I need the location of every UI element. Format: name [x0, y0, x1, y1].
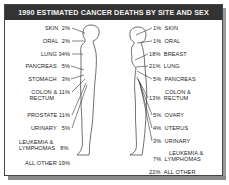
male-leader-lines	[71, 28, 87, 128]
body-silhouettes	[5, 5, 224, 177]
female-leader-lines	[135, 28, 152, 141]
diagram-frame: 1990 ESTIMATED CANCER DEATHS BY SITE AND…	[4, 4, 223, 176]
male-silhouette-icon	[77, 25, 99, 155]
